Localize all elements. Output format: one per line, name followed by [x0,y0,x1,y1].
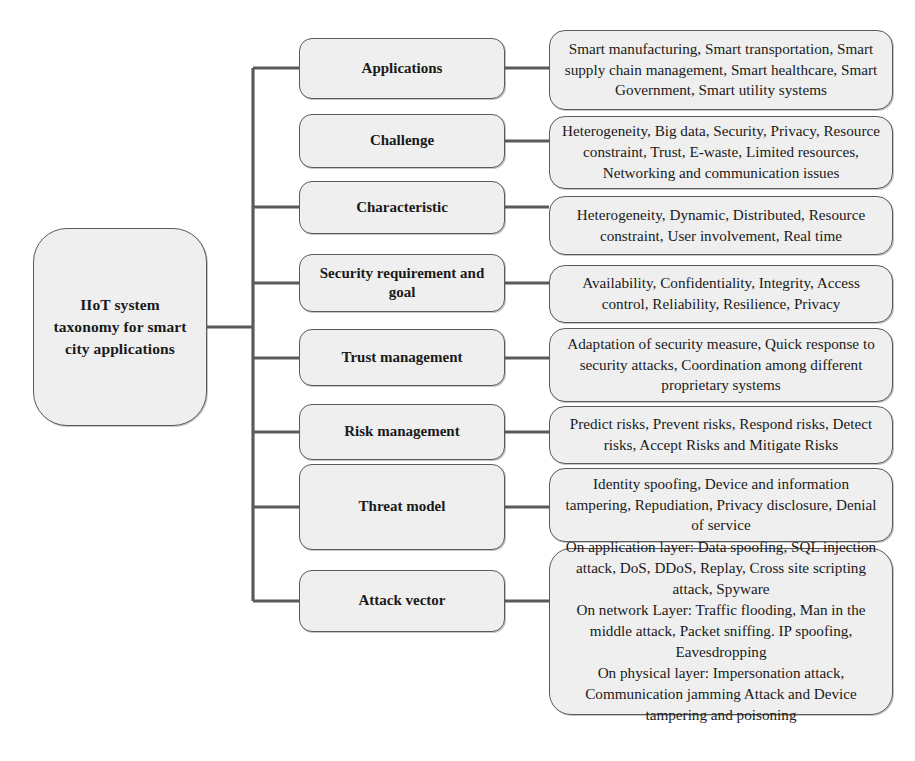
node-branch-threat-model-label: Threat model [359,497,446,517]
node-branch-risk-management[interactable]: Risk management [299,404,505,460]
node-detail-attack-vector-text: On application layer: Data spoofing, SQL… [562,537,880,726]
node-detail-challenge[interactable]: Heterogeneity, Big data, Security, Priva… [549,116,893,189]
node-branch-trust-management[interactable]: Trust management [299,329,505,386]
node-detail-risk-management-text: Predict risks, Prevent risks, Respond ri… [562,414,880,456]
node-branch-security-requirement-and-goal-label: Security requirement and goal [310,264,494,303]
node-detail-security-requirement-and-goal-text: Availability, Confidentiality, Integrity… [562,273,880,315]
node-detail-threat-model-text: Identity spoofing, Device and informatio… [562,474,880,537]
node-branch-security-requirement-and-goal[interactable]: Security requirement and goal [299,254,505,312]
node-detail-threat-model[interactable]: Identity spoofing, Device and informatio… [549,468,893,542]
node-detail-challenge-text: Heterogeneity, Big data, Security, Priva… [562,121,880,184]
node-detail-characteristic-text: Heterogeneity, Dynamic, Distributed, Res… [562,205,880,247]
node-detail-applications-text: Smart manufacturing, Smart transportatio… [562,39,880,102]
node-branch-challenge-label: Challenge [370,131,434,151]
node-branch-challenge[interactable]: Challenge [299,114,505,168]
node-root[interactable]: IIoT system taxonomy for smart city appl… [33,228,207,426]
node-detail-trust-management-text: Adaptation of security measure, Quick re… [562,334,880,397]
node-branch-threat-model[interactable]: Threat model [299,464,505,550]
node-branch-trust-management-label: Trust management [342,348,463,368]
node-detail-risk-management[interactable]: Predict risks, Prevent risks, Respond ri… [549,406,893,464]
node-detail-security-requirement-and-goal[interactable]: Availability, Confidentiality, Integrity… [549,265,893,323]
node-detail-attack-vector[interactable]: On application layer: Data spoofing, SQL… [549,548,893,715]
node-detail-characteristic[interactable]: Heterogeneity, Dynamic, Distributed, Res… [549,196,893,255]
node-branch-risk-management-label: Risk management [344,422,459,442]
node-detail-trust-management[interactable]: Adaptation of security measure, Quick re… [549,328,893,402]
node-detail-applications[interactable]: Smart manufacturing, Smart transportatio… [549,30,893,110]
node-branch-attack-vector-label: Attack vector [358,591,445,611]
taxonomy-diagram: IIoT system taxonomy for smart city appl… [0,0,915,761]
node-branch-characteristic[interactable]: Characteristic [299,181,505,234]
node-branch-applications[interactable]: Applications [299,38,505,99]
node-branch-applications-label: Applications [362,59,443,79]
node-branch-characteristic-label: Characteristic [356,198,448,218]
node-root-label: IIoT system taxonomy for smart city appl… [53,294,186,360]
node-branch-attack-vector[interactable]: Attack vector [299,570,505,632]
